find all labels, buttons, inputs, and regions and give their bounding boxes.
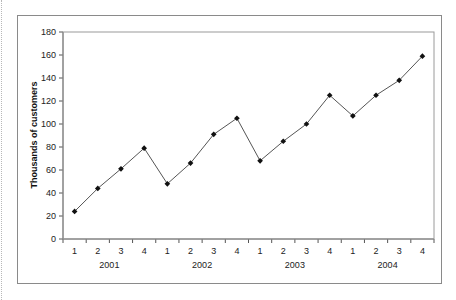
x-tick-label: 3 — [304, 246, 309, 256]
y-tick-label: 180 — [41, 27, 56, 37]
y-tick-label: 60 — [46, 165, 56, 175]
x-group-label: 2001 — [99, 260, 119, 270]
x-tick-label: 1 — [258, 246, 263, 256]
series-line — [75, 56, 423, 211]
x-tick-label: 3 — [397, 246, 402, 256]
x-tick-label: 2 — [281, 246, 286, 256]
x-tick-label: 2 — [95, 246, 100, 256]
y-tick-label: 20 — [46, 211, 56, 221]
x-group-label: 2002 — [192, 260, 212, 270]
x-group-label: 2004 — [378, 260, 398, 270]
line-chart: 020406080100120140160180 123412341234123… — [0, 0, 456, 300]
plot-area-border — [63, 32, 434, 239]
y-tick-label: 120 — [41, 96, 56, 106]
y-tick-label: 100 — [41, 119, 56, 129]
x-axis: 12341234123412342001200220032004 — [63, 239, 434, 270]
y-tick-label: 140 — [41, 73, 56, 83]
y-tick-label: 0 — [51, 234, 56, 244]
y-tick-label: 80 — [46, 142, 56, 152]
x-tick-label: 3 — [118, 246, 123, 256]
x-tick-label: 1 — [350, 246, 355, 256]
x-tick-label: 4 — [142, 246, 147, 256]
y-tick-label: 160 — [41, 50, 56, 60]
x-tick-label: 2 — [374, 246, 379, 256]
x-tick-label: 1 — [72, 246, 77, 256]
x-group-label: 2003 — [285, 260, 305, 270]
x-tick-label: 1 — [165, 246, 170, 256]
y-tick-label: 40 — [46, 188, 56, 198]
x-tick-label: 4 — [234, 246, 239, 256]
x-tick-label: 3 — [211, 246, 216, 256]
y-axis-title: Thousands of customers — [29, 81, 39, 188]
x-tick-label: 4 — [420, 246, 425, 256]
x-tick-label: 2 — [188, 246, 193, 256]
x-tick-label: 4 — [327, 246, 332, 256]
y-axis: 020406080100120140160180 — [41, 27, 63, 244]
plot-area — [63, 32, 434, 239]
